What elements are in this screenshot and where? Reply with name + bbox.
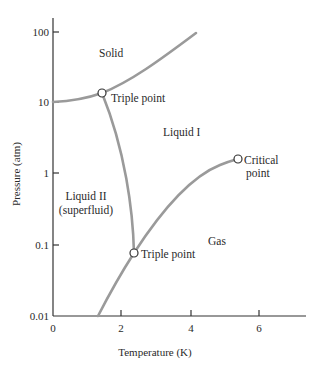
upper-triple-point-marker [98, 89, 106, 97]
lower-triple-point-marker [130, 249, 138, 257]
x-tick-label: 2 [118, 322, 124, 334]
lower-triple-point-label: Triple point [141, 248, 196, 261]
region-gas: Gas [208, 235, 226, 247]
critical-point-marker [234, 155, 242, 163]
region-liquid-2: Liquid II [65, 190, 106, 203]
region-solid: Solid [99, 47, 124, 59]
region-liquid-1: Liquid I [163, 126, 201, 139]
critical-point-label: Critical [244, 154, 279, 166]
upper-triple-point-label: Triple point [111, 92, 166, 105]
x-tick-label: 4 [188, 322, 194, 334]
critical-point-label-2: point [246, 167, 270, 180]
region-liquid-2-note: (superfluid) [59, 204, 113, 217]
y-axis-title: Pressure (atm) [10, 142, 23, 206]
y-tick-label: 10 [38, 96, 50, 108]
y-tick-label: 0.1 [35, 239, 49, 251]
phase-diagram: 100 10 1 0.1 0.01 0 2 4 6 Temperature (K… [0, 0, 324, 369]
lambda-line-main [102, 93, 134, 253]
y-tick-label: 1 [44, 167, 50, 179]
y-tick-label: 0.01 [30, 310, 49, 322]
y-tick-label: 100 [33, 26, 50, 38]
x-axis-title: Temperature (K) [118, 346, 192, 359]
x-tick-label: 6 [256, 322, 262, 334]
x-tick-label: 0 [50, 322, 56, 334]
